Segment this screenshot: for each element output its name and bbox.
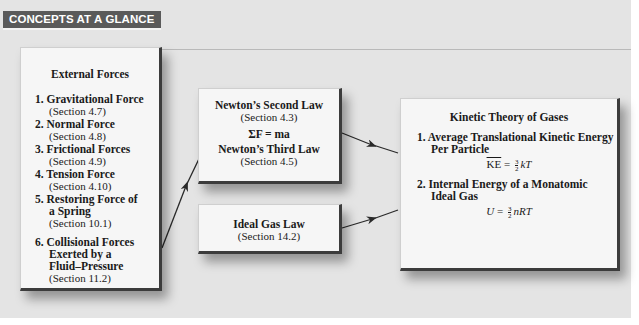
internal-energy-equation: U = 32nRT [417,204,601,219]
arrow-idealgas-to-kinetic [342,219,372,228]
kinetic-item-2: 2. Internal Energy of a Monatomic [417,178,617,190]
kinetic-theory-box: Kinetic Theory of Gases 1. Average Trans… [400,98,620,271]
force-item: 2. Normal Force (Section 4.8) [35,118,159,142]
force-item: 3. Frictional Forces (Section 4.9) [35,143,159,167]
arrow-forces-to-newton [162,186,186,248]
newton-laws-box: Newton’s Second Law (Section 4.3) ΣF = m… [198,88,342,184]
force-item: 1. Gravitational Force (Section 4.7) [35,93,159,117]
force-item: 6. Collisional Forces Exerted by a Fluid… [35,236,159,284]
ideal-gas-law-section: (Section 14.2) [199,230,339,242]
newton-third-law-title: Newton’s Third Law [199,143,339,155]
kinetic-theory-title: Kinetic Theory of Gases [417,111,601,123]
external-forces-box: External Forces 1. Gravitational Force (… [20,47,162,291]
external-forces-title: External Forces [35,68,145,80]
newton-equation: ΣF = ma [199,128,339,140]
force-item: 5. Restoring Force of a Spring (Section … [35,193,159,229]
kinetic-energy-equation: KE = 32kT [417,157,601,172]
kinetic-item-1-cont: Per Particle [417,143,617,155]
newton-third-law-section: (Section 4.5) [199,155,339,168]
fraction-three-halves: 32 [515,159,519,172]
newton-second-law-section: (Section 4.3) [199,111,339,124]
fraction-three-halves: 32 [508,206,512,219]
ideal-gas-law-title: Ideal Gas Law [199,218,339,230]
arrow-newton-to-kinetic [342,133,372,145]
kinetic-item-2-cont: Ideal Gas [417,190,617,202]
kinetic-item-1: 1. Average Translational Kinetic Energy [417,131,617,143]
newton-second-law-title: Newton’s Second Law [199,99,339,111]
ideal-gas-law-box: Ideal Gas Law (Section 14.2) [198,204,342,254]
force-item: 4. Tension Force (Section 4.10) [35,168,159,192]
